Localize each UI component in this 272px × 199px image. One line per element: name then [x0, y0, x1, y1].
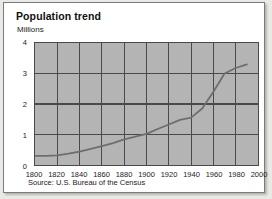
chart-card: Population trend Millions 01234 — [3, 2, 265, 193]
page-title: Population trend — [16, 10, 101, 22]
y-axis-tick-label: 2 — [3, 100, 27, 109]
y-axis-tick-label: 4 — [3, 38, 27, 47]
y-axis-unit-label: Millions — [17, 25, 44, 34]
x-axis-tick-label: 1940 — [183, 170, 200, 179]
x-axis-tick-label: 1980 — [228, 170, 245, 179]
y-axis-tick-label: 3 — [3, 69, 27, 78]
source-note: Source: U.S. Bureau of the Census — [28, 178, 145, 187]
plot-shell: 01234 — [31, 39, 259, 167]
x-axis-tick-label: 2000 — [251, 170, 268, 179]
y-axis-tick-label: 0 — [3, 162, 27, 171]
figure-background: Population trend Millions 01234 — [0, 0, 272, 199]
y-axis-tick-label: 1 — [3, 131, 27, 140]
x-axis-tick-label: 1960 — [206, 170, 223, 179]
x-axis-ticks: 1800182018401860188019001920194019601980… — [31, 39, 259, 167]
x-axis-tick-label: 1920 — [161, 170, 178, 179]
